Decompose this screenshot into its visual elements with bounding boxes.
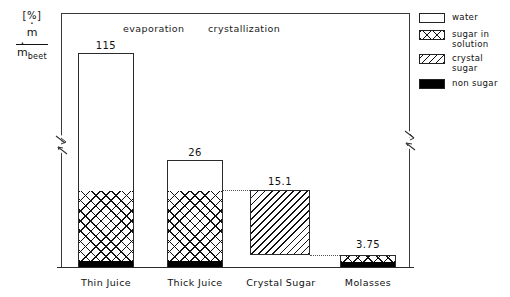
bar-thick-juice[interactable] — [167, 160, 223, 268]
bar-value-crystal-sugar: 15.1 — [250, 176, 310, 187]
segment-sugar-in-solution — [168, 191, 222, 261]
legend-label-sugar-in-solution: sugar in solution — [452, 29, 507, 49]
denominator-subscript: beet — [28, 52, 47, 61]
denominator-symbol: m — [17, 47, 28, 59]
segment-water — [79, 54, 133, 191]
bar-crystal-sugar[interactable] — [250, 190, 310, 255]
bar-value-thin-juice: 115 — [76, 40, 136, 51]
segment-non-sugar — [79, 261, 133, 267]
y-axis-fraction: m mbeet — [16, 27, 48, 65]
legend-swatch-crystal-sugar — [419, 54, 445, 64]
legend-swatch-non-sugar — [419, 79, 445, 89]
legend-item-crystal-sugar[interactable]: crystal sugar — [419, 53, 507, 73]
annotation-crystallization: crystallization — [208, 23, 280, 34]
bar-molasses[interactable] — [340, 255, 396, 268]
legend-label-crystal-sugar: crystal sugar — [452, 53, 507, 73]
legend-label-non-sugar: non sugar — [452, 78, 507, 88]
connector-thickjuice-to-crystalsugar — [222, 190, 252, 191]
annotation-evaporation: evaporation — [123, 23, 184, 34]
axis-break-left-icon — [55, 133, 69, 159]
connector-crystalsugar-to-molasses — [310, 255, 342, 256]
x-label-crystal-sugar: Crystal Sugar — [240, 277, 322, 288]
segment-water — [168, 161, 222, 191]
legend-item-water[interactable]: water — [419, 12, 507, 25]
axis-break-right-icon — [403, 128, 417, 154]
numerator-symbol: m — [27, 27, 38, 39]
bar-value-molasses: 3.75 — [338, 239, 398, 250]
bar-value-thick-juice: 26 — [165, 147, 225, 158]
segment-non-sugar — [168, 261, 222, 267]
legend: water sugar in solution crystal sugar no… — [419, 12, 507, 95]
legend-label-water: water — [452, 12, 507, 22]
legend-swatch-sugar-in-solution — [419, 30, 445, 40]
fraction-denominator: mbeet — [16, 47, 48, 65]
segment-non-sugar — [341, 262, 395, 267]
segment-crystal-sugar — [251, 191, 309, 254]
legend-item-sugar-in-solution[interactable]: sugar in solution — [419, 29, 507, 49]
x-label-thick-juice: Thick Juice — [155, 277, 235, 288]
x-label-thin-juice: Thin Juice — [66, 277, 146, 288]
chart-root: [%] m mbeet evaporation crystallization — [0, 0, 510, 297]
y-axis-label: [%] m mbeet — [6, 10, 58, 65]
x-label-molasses: Molasses — [330, 277, 406, 288]
legend-swatch-water — [419, 13, 445, 23]
segment-sugar-in-solution — [79, 191, 133, 261]
bar-thin-juice[interactable] — [78, 53, 134, 268]
legend-item-non-sugar[interactable]: non sugar — [419, 78, 507, 91]
